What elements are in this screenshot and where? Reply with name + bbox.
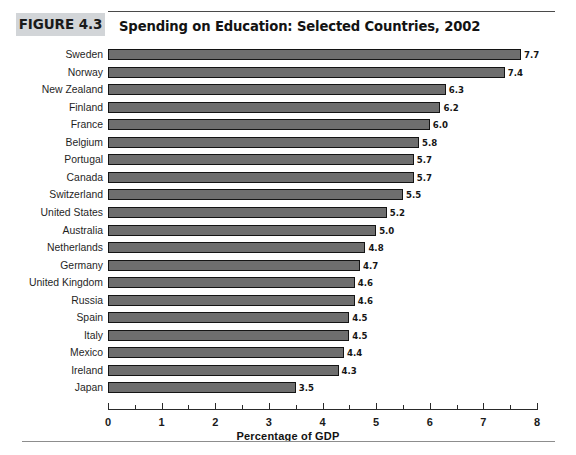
x-axis-tick-label: 1 [147, 416, 177, 428]
figure-title: Spending on Education: Selected Countrie… [119, 19, 480, 34]
category-label: Germany [60, 259, 103, 272]
x-axis-minor-tick [242, 405, 243, 410]
category-label: Switzerland [49, 188, 103, 201]
category-label: Spain [76, 311, 103, 324]
bar-row: Australia5.0 [0, 224, 576, 242]
x-axis-major-tick [376, 403, 377, 410]
category-label: Canada [67, 171, 103, 184]
bar-row: Canada5.7 [0, 171, 576, 189]
x-axis-tick-label: 5 [361, 416, 391, 428]
x-axis-tick-label: 3 [254, 416, 284, 428]
category-label: France [71, 118, 103, 131]
bar-value-label: 6.0 [433, 119, 448, 131]
bar-value-label: 4.6 [358, 277, 373, 289]
figure-number-label: FIGURE 4.3 [16, 13, 105, 36]
bar [108, 330, 349, 341]
x-axis-tick-label: 2 [200, 416, 230, 428]
bar [108, 49, 521, 60]
bar [108, 312, 349, 323]
bar-row: Mexico4.4 [0, 346, 576, 364]
bar-row: Portugal5.7 [0, 153, 576, 171]
category-label: Ireland [71, 364, 103, 377]
x-axis-major-tick [215, 403, 216, 410]
header-divider [108, 11, 555, 12]
bar [108, 119, 430, 130]
bar-value-label: 4.7 [363, 260, 378, 272]
category-label: Sweden [65, 48, 103, 61]
bar-value-label: 7.4 [508, 67, 523, 79]
category-label: United States [41, 206, 103, 219]
bar-value-label: 7.7 [524, 49, 539, 61]
bar [108, 67, 505, 78]
category-label: United Kingdom [29, 276, 103, 289]
bar-row: France6.0 [0, 118, 576, 136]
category-label: Norway [68, 66, 103, 79]
bar [108, 260, 360, 271]
x-axis-major-tick [537, 403, 538, 410]
bar-row: Italy4.5 [0, 329, 576, 347]
bar [108, 242, 365, 253]
bar [108, 225, 376, 236]
category-label: Italy [84, 329, 103, 342]
x-axis-major-tick [483, 403, 484, 410]
figure-header: FIGURE 4.3 Spending on Education: Select… [0, 0, 576, 44]
bar [108, 172, 414, 183]
x-axis-tick-label: 7 [468, 416, 498, 428]
bar-row: Netherlands4.8 [0, 241, 576, 259]
x-axis-tick-label: 6 [415, 416, 445, 428]
category-label: Australia [63, 224, 103, 237]
bar-row: Sweden7.7 [0, 48, 576, 66]
bar-row: Russia4.6 [0, 294, 576, 312]
bar-row: United Kingdom4.6 [0, 276, 576, 294]
bar-value-label: 6.2 [443, 102, 458, 114]
x-axis-major-tick [162, 403, 163, 410]
bar [108, 137, 419, 148]
category-label: Mexico [70, 346, 103, 359]
bar [108, 84, 446, 95]
bar-value-label: 4.8 [368, 242, 383, 254]
x-axis-minor-tick [403, 405, 404, 410]
x-axis-major-tick [108, 403, 109, 410]
bar-row: United States5.2 [0, 206, 576, 224]
bar-row: Spain4.5 [0, 311, 576, 329]
bar [108, 154, 414, 165]
bar [108, 189, 403, 200]
x-axis-minor-tick [510, 405, 511, 410]
x-axis-minor-tick [188, 405, 189, 410]
bar-value-label: 4.5 [352, 312, 367, 324]
bar [108, 365, 339, 376]
category-label: New Zealand [42, 83, 103, 96]
bar-value-label: 4.3 [342, 365, 357, 377]
x-axis-major-tick [323, 403, 324, 410]
bar-row: Norway7.4 [0, 66, 576, 84]
x-axis-tick-label: 8 [522, 416, 552, 428]
bar-value-label: 4.5 [352, 330, 367, 342]
bar-value-label: 5.7 [417, 172, 432, 184]
bar-row: Switzerland5.5 [0, 188, 576, 206]
bar-row: Belgium5.8 [0, 136, 576, 154]
bar-chart-plot-area: Sweden7.7Norway7.4New Zealand6.3Finland6… [0, 44, 576, 409]
category-label: Finland [69, 101, 103, 114]
bar-value-label: 5.5 [406, 189, 421, 201]
bar-row: Germany4.7 [0, 259, 576, 277]
x-axis-tick-label: 0 [93, 416, 123, 428]
figure-number-badge: FIGURE 4.3 [16, 13, 105, 36]
figure-footer-divider [22, 441, 555, 442]
bar-value-label: 5.2 [390, 207, 405, 219]
x-axis-minor-tick [349, 405, 350, 410]
bar-row: Japan3.5 [0, 381, 576, 399]
bar-value-label: 5.7 [417, 154, 432, 166]
bar-row: Ireland4.3 [0, 364, 576, 382]
category-label: Netherlands [47, 241, 103, 254]
category-label: Portugal [64, 153, 103, 166]
category-label: Belgium [65, 136, 103, 149]
bar-row: New Zealand6.3 [0, 83, 576, 101]
bar [108, 207, 387, 218]
bar [108, 347, 344, 358]
bar-value-label: 4.4 [347, 347, 362, 359]
bar-value-label: 5.0 [379, 225, 394, 237]
x-axis-minor-tick [457, 405, 458, 410]
bar [108, 382, 296, 393]
bar-row: Finland6.2 [0, 101, 576, 119]
bar-value-label: 6.3 [449, 84, 464, 96]
